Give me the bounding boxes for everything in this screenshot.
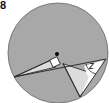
center-dot xyxy=(55,52,59,56)
angle-z-label: z xyxy=(89,60,94,71)
circle-geometry-diagram xyxy=(0,0,109,103)
